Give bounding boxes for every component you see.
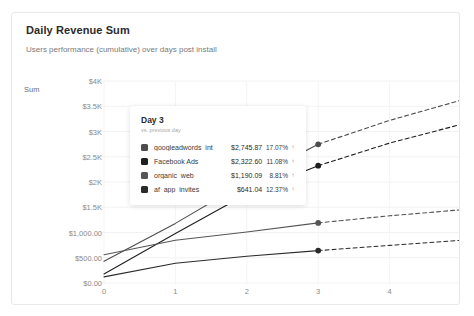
- series-delta: 17.07%: [262, 144, 290, 151]
- series-delta: 8.81%: [262, 172, 290, 179]
- y-axis-tick-label: $0.00: [83, 279, 102, 288]
- series-color-swatch: [141, 186, 148, 193]
- tooltip-row: googleadwords_int$2,745.8717.07%↑: [141, 140, 296, 154]
- arrow-up-icon: ↑: [290, 144, 296, 150]
- y-axis-tick-label: $500.00: [75, 253, 102, 262]
- series-data-point-marker[interactable]: [315, 220, 321, 226]
- series-color-swatch: [141, 172, 148, 179]
- tooltip-series-list: googleadwords_int$2,745.8717.07%↑Faceboo…: [141, 140, 296, 196]
- series-value: $641.04: [224, 186, 262, 193]
- series-color-swatch: [141, 144, 148, 151]
- tooltip-row: organic_web$1,190.098.81%↑: [141, 168, 296, 182]
- series-name: googleadwords_int: [154, 144, 224, 151]
- tooltip-row: af_app_invites$641.0412.37%↑: [141, 182, 296, 196]
- y-axis-tick-label: $4K: [89, 77, 102, 86]
- series-line: [104, 251, 318, 277]
- x-axis-tick-label: 1: [173, 287, 177, 296]
- x-axis: 012345: [104, 283, 460, 303]
- tooltip-title: Day 3: [141, 115, 296, 126]
- series-value: $1,190.09: [224, 172, 262, 179]
- card-subtitle: Users performance (cumulative) over days…: [26, 44, 445, 56]
- arrow-up-icon: ↑: [290, 186, 296, 192]
- series-name: organic_web: [154, 172, 224, 179]
- card-header: Daily Revenue Sum Users performance (cum…: [12, 13, 459, 56]
- arrow-up-icon: ↑: [290, 172, 296, 178]
- series-data-point-marker[interactable]: [315, 163, 321, 169]
- series-value: $2,745.87: [224, 144, 262, 151]
- x-axis-tick-label: 0: [102, 287, 106, 296]
- chart-tooltip: Day 3 vs. previous day googleadwords_int…: [130, 106, 306, 205]
- y-axis-tick-label: $2.5K: [82, 152, 102, 161]
- series-color-swatch: [141, 158, 148, 165]
- x-axis-tick-label: 5: [459, 287, 460, 296]
- y-axis: $4K$3.5K$3K$2.5K$2K$1.5K$1,000.00$500.00…: [52, 73, 102, 278]
- tooltip-subtitle: vs. previous day: [141, 126, 296, 135]
- y-axis-tick-label: $1.5K: [82, 203, 102, 212]
- y-axis-tick-label: $1,000.00: [69, 228, 102, 237]
- series-data-point-marker[interactable]: [315, 248, 321, 254]
- series-line: [104, 223, 318, 255]
- revenue-chart-card: Daily Revenue Sum Users performance (cum…: [11, 12, 460, 305]
- x-axis-tick-label: 4: [388, 287, 392, 296]
- page-title: Daily Revenue Sum: [26, 23, 445, 37]
- x-axis-tick-label: 3: [316, 287, 320, 296]
- y-axis-tick-label: $3.5K: [82, 102, 102, 111]
- series-name: Facebook Ads: [154, 158, 224, 165]
- tooltip-row: Facebook Ads$2,322.6011.08%↑: [141, 154, 296, 168]
- series-data-point-marker[interactable]: [315, 141, 321, 147]
- series-value: $2,322.60: [224, 158, 262, 165]
- y-axis-tick-label: $2K: [89, 178, 102, 187]
- arrow-up-icon: ↑: [290, 158, 296, 164]
- x-axis-tick-label: 2: [245, 287, 249, 296]
- series-delta: 11.08%: [262, 158, 290, 165]
- series-delta: 12.37%: [262, 186, 290, 193]
- y-axis-tick-label: $3K: [89, 127, 102, 136]
- chart-plot-area[interactable]: Sum $4K$3.5K$3K$2.5K$2K$1.5K$1,000.00$50…: [12, 73, 460, 305]
- series-name: af_app_invites: [154, 186, 224, 193]
